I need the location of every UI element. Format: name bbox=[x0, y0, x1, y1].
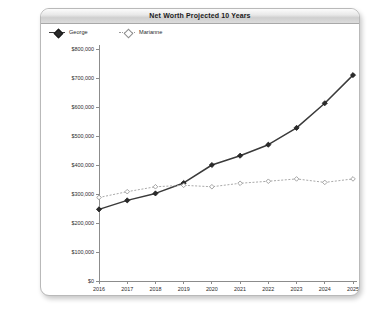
legend-label-george: George bbox=[69, 29, 88, 35]
x-tick-label: 2019 bbox=[178, 286, 190, 292]
x-tick-label: 2023 bbox=[291, 286, 303, 292]
open-diamond-icon bbox=[123, 29, 133, 39]
data-point-george bbox=[96, 207, 101, 212]
plot-area: $0$100,000$200,000$300,000$400,000$500,0… bbox=[41, 39, 360, 296]
legend-line-george bbox=[49, 32, 65, 33]
y-tick-label: $400,000 bbox=[72, 162, 94, 168]
data-point-marianne bbox=[153, 184, 158, 189]
x-tick-label: 2016 bbox=[93, 286, 105, 292]
y-tick-label: $500,000 bbox=[72, 133, 94, 139]
data-point-marianne bbox=[266, 179, 271, 184]
legend-item-george[interactable]: George bbox=[49, 25, 88, 39]
legend-label-marianne: Marianne bbox=[139, 29, 162, 35]
filled-diamond-icon bbox=[53, 28, 63, 38]
window-title-bar: Net Worth Projected 10 Years bbox=[41, 9, 359, 24]
data-point-marianne bbox=[322, 180, 327, 185]
legend-item-marianne[interactable]: Marianne bbox=[119, 25, 162, 39]
data-point-marianne bbox=[351, 177, 356, 182]
y-axis-ticks: $0$100,000$200,000$300,000$400,000$500,0… bbox=[72, 46, 99, 284]
data-point-george bbox=[125, 198, 130, 203]
y-tick-label: $100,000 bbox=[72, 249, 94, 255]
y-tick-label: $200,000 bbox=[72, 220, 94, 226]
line-chart-svg: $0$100,000$200,000$300,000$400,000$500,0… bbox=[41, 39, 360, 296]
data-point-marianne bbox=[238, 181, 243, 186]
data-point-george bbox=[238, 153, 243, 158]
y-tick-label: $800,000 bbox=[72, 46, 94, 52]
data-point-marianne bbox=[97, 195, 102, 200]
x-tick-label: 2021 bbox=[234, 286, 246, 292]
data-point-marianne bbox=[125, 189, 130, 194]
y-tick-label: $300,000 bbox=[72, 191, 94, 197]
data-point-marianne bbox=[210, 184, 215, 189]
series-line-marianne bbox=[99, 179, 353, 198]
page-title: Net Worth Projected 10 Years bbox=[41, 9, 359, 23]
x-tick-label: 2024 bbox=[319, 286, 331, 292]
y-tick-label: $0 bbox=[88, 278, 94, 284]
x-axis-ticks: 2016201720182019202020212022202320242025 bbox=[93, 281, 359, 292]
x-tick-label: 2022 bbox=[262, 286, 274, 292]
chart-window: Net Worth Projected 10 Years George Mari… bbox=[40, 8, 360, 296]
x-tick-label: 2018 bbox=[149, 286, 161, 292]
series-line-george bbox=[99, 75, 353, 209]
chart-legend: George Marianne bbox=[41, 25, 359, 39]
x-tick-label: 2020 bbox=[206, 286, 218, 292]
x-tick-label: 2025 bbox=[347, 286, 359, 292]
y-tick-label: $600,000 bbox=[72, 104, 94, 110]
legend-line-marianne bbox=[119, 32, 135, 33]
x-tick-label: 2017 bbox=[121, 286, 133, 292]
data-series-layer bbox=[96, 73, 355, 212]
y-tick-label: $700,000 bbox=[72, 75, 94, 81]
data-point-george bbox=[153, 191, 158, 196]
data-point-marianne bbox=[294, 177, 299, 182]
